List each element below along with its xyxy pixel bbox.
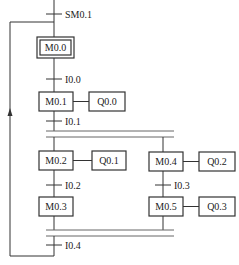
step-label: M0.1	[45, 96, 66, 107]
step-label: M0.2	[45, 155, 66, 166]
action-label: Q0.0	[97, 96, 117, 107]
step-label: M0.0	[45, 42, 66, 53]
step-label: M0.3	[45, 201, 66, 212]
action-label: Q0.2	[207, 156, 227, 167]
step-label: M0.5	[155, 201, 176, 212]
transition-label: I0.1	[65, 116, 81, 127]
arrow-up-icon	[8, 108, 13, 116]
sfc-diagram: SM0.1 M0.0 I0.0 M0.1 Q0.0 I0.1 M0.2 Q0.1…	[0, 0, 239, 265]
action-label: Q0.1	[99, 155, 119, 166]
action-label: Q0.3	[207, 201, 227, 212]
transition-label: SM0.1	[65, 9, 92, 20]
transition-label: I0.0	[65, 74, 81, 85]
transition-label: I0.4	[65, 240, 81, 251]
step-label: M0.4	[155, 156, 176, 167]
transition-label: I0.3	[174, 180, 190, 191]
transition-label: I0.2	[65, 180, 81, 191]
